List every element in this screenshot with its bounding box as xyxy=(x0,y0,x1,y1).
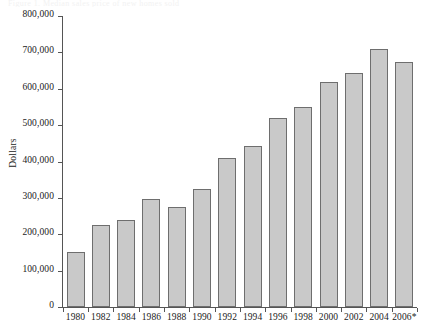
bar xyxy=(92,225,110,307)
y-axis-tick-mark xyxy=(58,89,63,90)
cut-off-caption-remnant: Figure 1. Median sales price of new home… xyxy=(8,0,338,7)
y-axis-tick: 100,000 xyxy=(0,271,63,272)
y-axis-tick: 300,000 xyxy=(0,198,63,199)
y-axis-tick-mark xyxy=(58,52,63,53)
y-axis-tick-label: 600,000 xyxy=(22,82,54,92)
x-axis-tick-label: 1996 xyxy=(264,312,292,322)
y-axis-title: Dollars xyxy=(8,118,18,188)
y-axis-tick-label: 800,000 xyxy=(22,9,54,19)
bar xyxy=(294,107,312,307)
y-axis-tick-label: 700,000 xyxy=(22,45,54,55)
x-axis-tick-label: 1984 xyxy=(112,312,140,322)
y-axis-tick-label: 500,000 xyxy=(22,118,54,128)
x-axis-tick-label: 1998 xyxy=(289,312,317,322)
y-axis-tick: 0 xyxy=(0,307,63,308)
y-axis-tick: 700,000 xyxy=(0,52,63,53)
x-axis-tick-label: 1990 xyxy=(188,312,216,322)
x-axis-tick-label: 1986 xyxy=(137,312,165,322)
y-axis-tick-mark xyxy=(58,198,63,199)
bar xyxy=(370,49,388,307)
y-axis-tick: 500,000 xyxy=(0,125,63,126)
bar xyxy=(117,220,135,307)
bar xyxy=(67,252,85,307)
y-axis-tick: 800,000 xyxy=(0,16,63,17)
bar xyxy=(395,62,413,307)
y-axis-tick-mark xyxy=(58,234,63,235)
y-axis-tick-label: 100,000 xyxy=(22,264,54,274)
x-axis-tick-label: 2000 xyxy=(315,312,343,322)
y-axis-tick-mark xyxy=(58,125,63,126)
y-axis-tick-mark xyxy=(58,162,63,163)
y-axis-tick: 400,000 xyxy=(0,162,63,163)
x-axis-tick-label: 1982 xyxy=(87,312,115,322)
y-axis-tick-label: 0 xyxy=(49,300,54,310)
bar xyxy=(320,82,338,307)
bar xyxy=(269,118,287,307)
bar-chart: Figure 1. Median sales price of new home… xyxy=(0,0,425,325)
bar xyxy=(345,73,363,307)
y-axis-tick: 600,000 xyxy=(0,89,63,90)
bar xyxy=(193,189,211,307)
x-axis-tick-label: 1980 xyxy=(62,312,90,322)
x-axis-tick-label: 2002 xyxy=(340,312,368,322)
x-axis-tick-label: 1994 xyxy=(239,312,267,322)
bar xyxy=(218,158,236,307)
x-axis-tick-label: 2004 xyxy=(365,312,393,322)
x-axis-tick-mark xyxy=(417,308,418,312)
y-axis-tick-label: 400,000 xyxy=(22,155,54,165)
bar xyxy=(168,207,186,307)
y-axis-tick: 200,000 xyxy=(0,234,63,235)
x-axis-tick-label: 1988 xyxy=(163,312,191,322)
y-axis-tick-mark xyxy=(58,16,63,17)
y-axis-tick-mark xyxy=(58,271,63,272)
x-axis-tick-label: 1992 xyxy=(213,312,241,322)
y-axis-tick-label: 300,000 xyxy=(22,191,54,201)
y-axis-tick-label: 200,000 xyxy=(22,227,54,237)
x-axis-tick-label: 2006* xyxy=(390,312,418,322)
bar xyxy=(142,199,160,307)
bar xyxy=(244,146,262,307)
